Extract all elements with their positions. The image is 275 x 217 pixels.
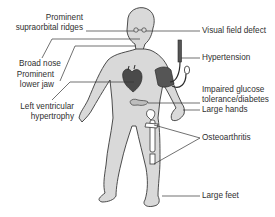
label-visual-field-defect: Visual field defect [202,26,266,36]
label-glucose-line2: tolerance/diabetes [202,95,269,105]
label-lower-jaw-line1: Prominent [6,70,54,80]
bulb-icon [184,66,189,74]
label-large-hands: Large hands [202,105,248,115]
manometer-icon [178,40,182,62]
body-figure [79,8,184,207]
label-broad-nose: Broad nose [19,59,61,69]
label-hypertension: Hypertension [202,53,250,63]
acromegaly-diagram: Prominent supraorbital ridges Broad nose… [0,0,275,217]
label-large-feet: Large feet [202,191,239,201]
label-supraorbital-line1: Prominent [10,13,83,23]
label-lvh-line1: Left ventricular [12,102,74,112]
label-supraorbital-line2: supraorbital ridges [10,23,83,33]
label-left-ventricular-hypertrophy: Left ventricular hypertrophy [12,102,74,121]
label-lvh-line2: hypertrophy [12,112,74,122]
label-osteoarthritis: Osteoarthritis [202,133,251,143]
label-prominent-lower-jaw: Prominent lower jaw [6,70,54,89]
label-lower-jaw-line2: lower jaw [6,80,54,90]
bp-cuff-icon [155,67,174,87]
label-glucose-line1: Impaired glucose [202,85,269,95]
label-impaired-glucose-tolerance: Impaired glucose tolerance/diabetes [202,85,269,104]
label-supraorbital-ridges: Prominent supraorbital ridges [10,13,83,32]
